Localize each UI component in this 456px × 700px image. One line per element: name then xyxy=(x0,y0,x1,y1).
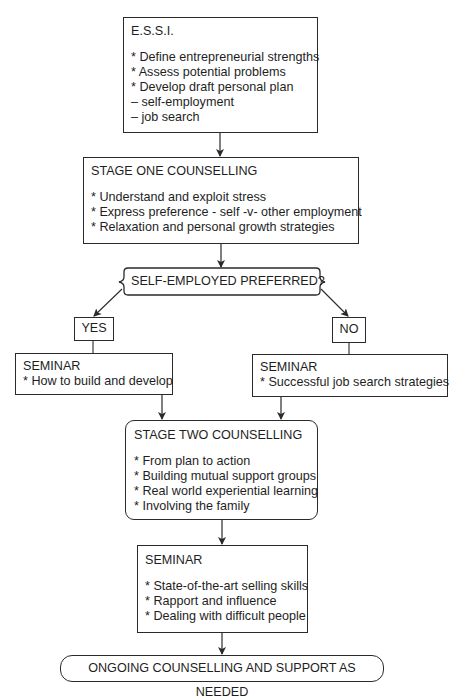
seminar-final-title: SEMINAR xyxy=(145,553,307,568)
seminar-final-item: * Dealing with difficult people xyxy=(145,609,307,624)
stage-two-item: * From plan to action xyxy=(134,454,317,469)
essi-box: E.S.S.I. * Define entrepreneurial streng… xyxy=(123,17,318,133)
essi-item: * Assess potential problems xyxy=(131,65,317,80)
yes-box: YES xyxy=(74,317,114,341)
stage-one-title: STAGE ONE COUNSELLING xyxy=(91,164,358,179)
stage-one-item: * Express preference - self -v- other em… xyxy=(91,205,358,220)
ongoing-box: ONGOING COUNSELLING AND SUPPORT AS NEEDE… xyxy=(60,655,384,682)
seminar-final-item: * State-of-the-art selling skills xyxy=(145,579,307,594)
seminar-yes-title: SEMINAR xyxy=(23,359,172,374)
essi-title: E.S.S.I. xyxy=(131,24,317,39)
stage-two-title: STAGE TWO COUNSELLING xyxy=(134,428,317,443)
ongoing-label: ONGOING COUNSELLING AND SUPPORT AS NEEDE… xyxy=(88,661,356,699)
seminar-no-item: * Successful job search strategies xyxy=(260,375,447,390)
stage-one-box: STAGE ONE COUNSELLING * Understand and e… xyxy=(83,157,359,244)
seminar-no-title: SEMINAR xyxy=(260,360,447,375)
stage-one-item: * Relaxation and personal growth strateg… xyxy=(91,220,358,235)
decision-label: SELF-EMPLOYED PREFERRED? xyxy=(131,274,325,289)
no-label: NO xyxy=(340,322,359,336)
essi-item: * Develop draft personal plan xyxy=(131,80,317,95)
arrow-decision-to-yes xyxy=(94,289,122,316)
stage-two-item: * Real world experiential learning xyxy=(134,484,317,499)
seminar-final-item: * Rapport and influence xyxy=(145,594,307,609)
stage-one-item: * Understand and exploit stress xyxy=(91,190,358,205)
essi-item: – self-employment xyxy=(131,95,317,110)
stage-two-box: STAGE TWO COUNSELLING * From plan to act… xyxy=(125,420,318,520)
stage-two-item: * Involving the family xyxy=(134,499,317,514)
essi-item: * Define entrepreneurial strengths xyxy=(131,50,317,65)
arrow-decision-to-no xyxy=(321,289,348,316)
stage-two-item: * Building mutual support groups xyxy=(134,469,317,484)
seminar-final-box: SEMINAR * State-of-the-art selling skill… xyxy=(137,545,308,633)
seminar-yes-box: SEMINAR * How to build and develop xyxy=(15,353,173,395)
essi-item: – job search xyxy=(131,110,317,125)
seminar-no-box: SEMINAR * Successful job search strategi… xyxy=(252,354,448,397)
seminar-yes-item: * How to build and develop xyxy=(23,374,172,389)
no-box: NO xyxy=(332,317,366,343)
yes-label: YES xyxy=(81,321,106,335)
